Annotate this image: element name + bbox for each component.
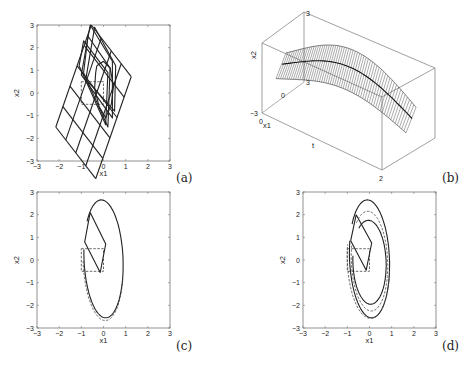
x2-tick-top: 3 bbox=[306, 10, 310, 17]
box-edge bbox=[382, 138, 435, 170]
figure: −3−2−101233210−1−2−3x1x2 3−30302x1tx2 −3… bbox=[0, 0, 476, 366]
tube-hatch bbox=[285, 51, 295, 79]
box-edge bbox=[262, 43, 382, 97]
x1-tick-3: 3 bbox=[306, 79, 310, 86]
y-tick-label: −3 bbox=[26, 158, 34, 165]
x-tick-label: 2 bbox=[146, 330, 150, 337]
y-tick-label: −1 bbox=[26, 112, 34, 119]
parallelogram-lattice bbox=[56, 25, 131, 179]
box-edge bbox=[262, 113, 382, 170]
tube-hatch bbox=[304, 46, 314, 80]
x-tick-label: −2 bbox=[321, 330, 329, 337]
panel-b-3d-plot: 3−30302x1tx2 bbox=[249, 10, 435, 182]
y-tick-label: 1 bbox=[296, 234, 300, 241]
y-tick-label: −2 bbox=[26, 302, 34, 309]
tube-hatch bbox=[400, 100, 410, 128]
panel-label-d: (d) bbox=[442, 339, 459, 353]
x-axis-label: x1 bbox=[366, 336, 374, 345]
tube-hatch bbox=[300, 47, 310, 80]
tube-hatch bbox=[406, 107, 416, 133]
box-edge bbox=[382, 68, 435, 97]
y-axis-label: x2 bbox=[278, 256, 287, 264]
y-axis-label: x2 bbox=[12, 256, 21, 264]
tube-hatch bbox=[306, 46, 316, 80]
tube-hatch bbox=[315, 45, 325, 81]
tube-hatch bbox=[291, 49, 301, 79]
y-tick-label: 3 bbox=[30, 22, 34, 29]
y-tick-label: 1 bbox=[30, 234, 34, 241]
x2-tick-bottom: −3 bbox=[250, 110, 258, 117]
final-set bbox=[351, 215, 372, 271]
y-tick-label: 3 bbox=[296, 189, 300, 196]
tube-hatch bbox=[397, 97, 407, 125]
x-tick-label: −3 bbox=[33, 330, 41, 337]
tube-hatch bbox=[402, 102, 412, 129]
tube-hatch bbox=[313, 45, 323, 81]
x-tick-label: 3 bbox=[168, 330, 172, 337]
y-tick-label: 1 bbox=[30, 67, 34, 74]
x2-axis-label: x2 bbox=[249, 51, 258, 59]
x-tick-label: 3 bbox=[168, 163, 172, 170]
tube-lower-edge bbox=[276, 79, 406, 133]
tube-hatch bbox=[404, 105, 414, 131]
tube-hatch bbox=[348, 52, 358, 90]
x-axis-label: x1 bbox=[100, 169, 108, 178]
x-tick-label: 1 bbox=[124, 163, 128, 170]
panel-a-plot: −3−2−101233210−1−2−3x1x2 bbox=[12, 22, 172, 179]
tube-hatch bbox=[395, 95, 405, 124]
tube-hatch bbox=[289, 50, 299, 80]
box-edge bbox=[262, 12, 304, 43]
y-tick-label: 3 bbox=[30, 189, 34, 196]
tube-hatch bbox=[352, 54, 362, 92]
tube-hatch bbox=[298, 48, 308, 80]
x-tick-label: 2 bbox=[146, 163, 150, 170]
tube-hatch bbox=[311, 45, 321, 80]
spiral-dashed bbox=[351, 211, 388, 311]
x1-axis-label: x1 bbox=[263, 121, 271, 130]
t-axis-label: t bbox=[312, 141, 315, 150]
panel-label-c: (c) bbox=[176, 339, 192, 353]
trajectory-dashed bbox=[83, 261, 123, 320]
x-tick-label: 2 bbox=[412, 330, 416, 337]
x-tick-label: 1 bbox=[124, 330, 128, 337]
tube-hatch bbox=[309, 46, 319, 81]
x-tick-label: 3 bbox=[434, 330, 438, 337]
tube-hatch bbox=[278, 52, 288, 78]
y-tick-label: 2 bbox=[296, 211, 300, 218]
y-tick-label: 0 bbox=[296, 257, 300, 264]
y-tick-label: −3 bbox=[292, 325, 300, 332]
inner-spiral bbox=[353, 220, 386, 304]
y-tick-label: −3 bbox=[26, 325, 34, 332]
y-tick-label: −2 bbox=[26, 135, 34, 142]
y-tick-label: 0 bbox=[30, 90, 34, 97]
y-axis-label: x2 bbox=[12, 89, 21, 97]
y-tick-label: 0 bbox=[30, 257, 34, 264]
x-axis-label: x1 bbox=[100, 336, 108, 345]
panel-label-a: (a) bbox=[176, 171, 193, 185]
tube-hatch bbox=[350, 53, 360, 91]
lattice-line bbox=[66, 38, 102, 140]
parallelogram bbox=[79, 41, 108, 125]
y-tick-label: 2 bbox=[30, 44, 34, 51]
panel-c-plot: −3−2−101233210−1−2−3x1x2 bbox=[12, 189, 172, 346]
tube-hatch bbox=[276, 53, 286, 79]
panel-label-b: (b) bbox=[442, 171, 459, 185]
x-tick-label: 1 bbox=[390, 330, 394, 337]
y-tick-label: −2 bbox=[292, 302, 300, 309]
x1-tick-0: 0 bbox=[281, 92, 285, 99]
tube-hatch bbox=[280, 52, 290, 79]
x-tick-label: −1 bbox=[77, 330, 85, 337]
final-set bbox=[85, 212, 106, 272]
y-tick-label: −1 bbox=[292, 279, 300, 286]
tube-hatch bbox=[283, 51, 293, 79]
t-tick-end: 2 bbox=[379, 175, 383, 182]
x-tick-label: −2 bbox=[55, 330, 63, 337]
x-tick-label: −3 bbox=[299, 330, 307, 337]
y-tick-label: 2 bbox=[30, 211, 34, 218]
reachable-tube bbox=[276, 45, 416, 133]
tube-hatch bbox=[302, 47, 312, 80]
y-tick-label: −1 bbox=[26, 279, 34, 286]
x-tick-label: −2 bbox=[55, 163, 63, 170]
trajectory bbox=[282, 61, 412, 119]
panel-d-plot: −3−2−101233210−1−2−3x1x2 bbox=[278, 189, 438, 346]
